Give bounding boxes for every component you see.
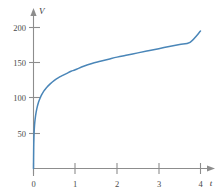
- y-tick-label-100: 100: [13, 93, 26, 103]
- x-tick-label-1: 1: [73, 179, 77, 189]
- x-tick-label-2: 2: [115, 179, 119, 189]
- x-tick-label-0: 0: [31, 179, 35, 189]
- y-tick-label-200: 200: [13, 23, 26, 33]
- y-axis-label: V: [39, 6, 46, 16]
- chart-canvas: 200 150 100 50 0 1 2 3 4 V t: [0, 0, 222, 192]
- y-tick-label-150: 150: [13, 58, 26, 68]
- y-tick-group: [29, 28, 40, 134]
- x-tick-label-4: 4: [198, 179, 203, 189]
- x-axis-arrowhead: [207, 165, 215, 171]
- x-axis-label: t: [210, 178, 213, 188]
- data-curve: [34, 31, 201, 168]
- x-tick-label-3: 3: [157, 179, 161, 189]
- figure-container: 200 150 100 50 0 1 2 3 4 V t: [0, 0, 222, 192]
- y-tick-label-50: 50: [18, 129, 27, 139]
- y-axis-arrowhead: [30, 8, 36, 16]
